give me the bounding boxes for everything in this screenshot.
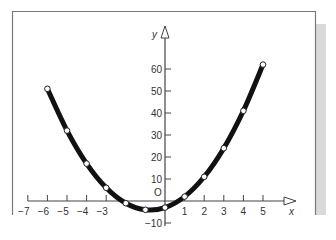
x-tick-label: −7 — [18, 206, 30, 217]
y-tick-label: 10 — [151, 174, 163, 185]
data-point — [64, 128, 70, 134]
data-point — [221, 145, 227, 151]
data-point — [260, 62, 266, 68]
data-point — [241, 108, 247, 114]
data-point — [84, 161, 90, 167]
data-point — [182, 194, 188, 200]
chart-canvas: −7−6−5−4−312345605040302010−10 x y O — [0, 0, 336, 240]
data-point — [143, 207, 149, 213]
y-tick-label: 30 — [151, 130, 163, 141]
x-tick-label: −4 — [77, 206, 89, 217]
data-point — [123, 200, 129, 206]
y-axis-label: y — [151, 29, 158, 40]
x-tick-label: 3 — [221, 206, 227, 217]
data-point — [201, 174, 207, 180]
origin-label: O — [154, 187, 162, 198]
x-tick-label: −5 — [57, 206, 69, 217]
x-tick-label: −3 — [96, 206, 108, 217]
axes — [28, 26, 296, 226]
data-point — [162, 205, 168, 211]
tick-labels: −7−6−5−4−312345605040302010−10 — [18, 64, 266, 229]
y-tick-label: 40 — [151, 108, 163, 119]
x-tick-label: 2 — [201, 206, 207, 217]
x-axis-label: x — [288, 206, 295, 217]
y-tick-label: 60 — [151, 64, 163, 75]
data-point — [45, 86, 51, 92]
data-point — [103, 185, 109, 191]
x-tick-label: 5 — [260, 206, 266, 217]
y-axis-arrow-icon — [161, 26, 169, 38]
y-tick-label: 20 — [151, 152, 163, 163]
x-tick-label: 4 — [241, 206, 247, 217]
side-shadow-strip — [316, 24, 326, 215]
y-tick-label: 50 — [151, 86, 163, 97]
x-tick-label: −6 — [38, 206, 50, 217]
x-tick-label: 1 — [182, 206, 188, 217]
x-axis-arrow-icon — [284, 197, 296, 205]
y-tick-label: −10 — [145, 218, 162, 229]
